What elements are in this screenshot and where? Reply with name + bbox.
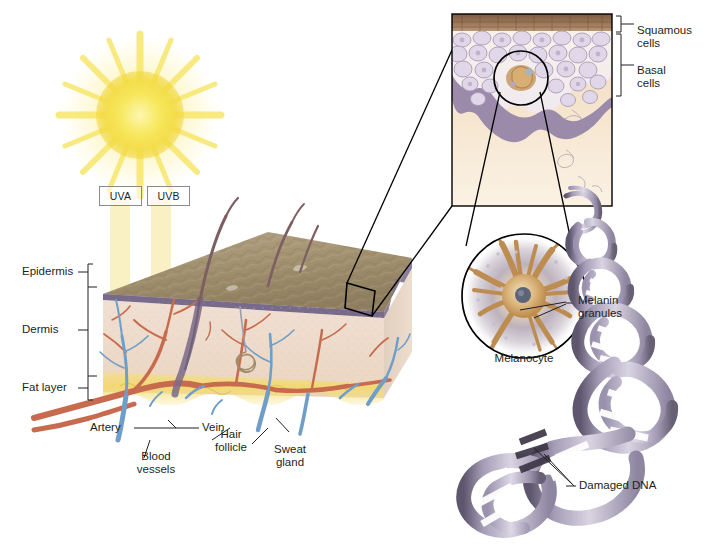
label-squamous-cells: Squamous cells [637,24,692,50]
skin-block [34,198,420,440]
sun-graphic [59,34,221,196]
diagram-graphics [0,0,712,546]
uvb-label-box: UVB [147,186,190,206]
label-blood-vessels: Blood vessels [124,450,188,476]
label-dermis: Dermis [22,323,58,336]
label-epidermis: Epidermis [22,265,73,278]
label-hair-follicle: Hair follicle [203,428,259,454]
illustration-canvas: UVA UVB Epidermis Dermis Fat layer Arter… [0,0,712,546]
label-fat-layer: Fat layer [22,381,67,394]
label-sweat-gland: Sweat gland [260,443,320,469]
layer-bracket [78,264,97,400]
inset-brackets [616,16,634,96]
label-melanin-granules: Melanin granules [578,294,622,320]
epidermis-inset [449,14,612,206]
label-basal-cells: Basal cells [637,64,666,90]
label-melanocyte: Melanocyte [474,352,574,365]
uva-label-box: UVA [99,186,142,206]
label-damaged-dna: Damaged DNA [579,479,656,492]
label-artery: Artery [90,421,121,434]
